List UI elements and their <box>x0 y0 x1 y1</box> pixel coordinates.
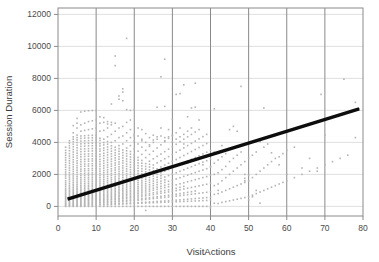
plot-svg: 0200040006000800010000120000102030405060… <box>0 0 379 262</box>
y-tick-label: 0 <box>46 201 51 211</box>
x-tick-label: 80 <box>358 223 368 233</box>
x-tick-label: 40 <box>206 223 216 233</box>
scatter-plot-figure: 0200040006000800010000120000102030405060… <box>0 0 379 262</box>
x-tick-label: 30 <box>168 223 178 233</box>
x-tick-label: 0 <box>56 223 61 233</box>
y-tick-label: 2000 <box>32 169 51 179</box>
x-tick-label: 50 <box>244 223 254 233</box>
y-tick-label: 12000 <box>27 9 51 19</box>
y-tick-label: 8000 <box>32 73 51 83</box>
x-tick-label: 60 <box>282 223 292 233</box>
x-tick-label: 10 <box>91 223 101 233</box>
y-tick-label: 4000 <box>32 137 51 147</box>
x-axis-title: VisitActions <box>187 246 236 257</box>
x-tick-label: 70 <box>320 223 330 233</box>
y-tick-label: 6000 <box>32 105 51 115</box>
y-axis-title: Session Duration <box>3 76 14 148</box>
x-tick-label: 20 <box>130 223 140 233</box>
y-tick-label: 10000 <box>27 41 51 51</box>
